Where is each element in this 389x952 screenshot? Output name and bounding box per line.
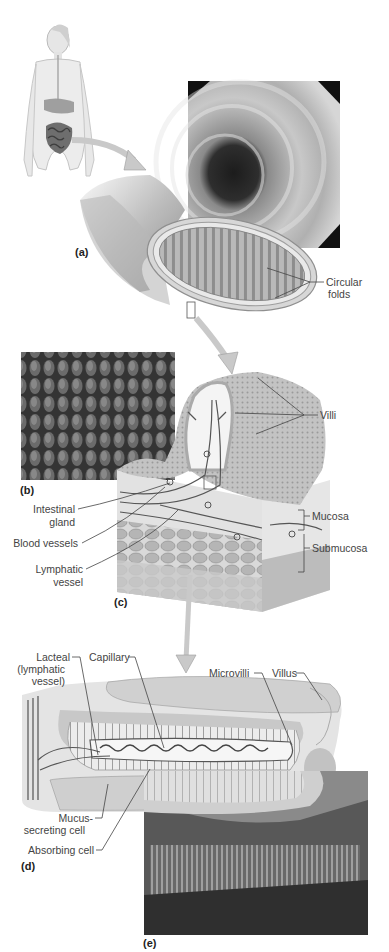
label-lacteal-2: (lymphatic: [10, 663, 65, 675]
label-mucus-secreting-cell-2: secreting cell: [10, 824, 85, 836]
label-lacteal-1: Lacteal: [10, 651, 70, 663]
label-mucus-secreting-cell-1: Mucus-: [20, 812, 93, 824]
label-circular-folds-2: folds: [328, 288, 350, 300]
panel-label-c: (c): [114, 596, 127, 608]
label-villi: Villi: [320, 409, 336, 421]
label-lymphatic-vessel-2: vessel: [20, 576, 83, 588]
label-capillary: Capillary: [89, 651, 130, 663]
label-microvilli: Microvilli: [209, 667, 249, 679]
label-intestinal-gland-1: Intestinal: [20, 503, 75, 515]
label-villus: Villus: [272, 667, 297, 679]
zoom-arrow-2: [196, 318, 228, 360]
label-submucosa: Submucosa: [312, 542, 367, 554]
panel-label-b: (b): [20, 484, 34, 496]
human-figure: [24, 24, 94, 176]
label-absorbing-cell: Absorbing cell: [10, 844, 94, 856]
panel-label-a: (a): [75, 246, 88, 258]
label-lacteal-3: vessel): [10, 675, 65, 687]
label-blood-vessels: Blood vessels: [10, 537, 78, 549]
label-circular-folds-1: Circular: [326, 276, 362, 288]
anatomy-illustration: [0, 0, 389, 952]
panel-label-e: (e): [143, 937, 156, 949]
label-mucosa: Mucosa: [312, 510, 349, 522]
label-intestinal-gland-2: gland: [20, 516, 75, 528]
panel-label-d: (d): [21, 860, 35, 872]
label-lymphatic-vessel-1: Lymphatic: [20, 563, 83, 575]
microvilli-micrograph: [144, 771, 368, 935]
